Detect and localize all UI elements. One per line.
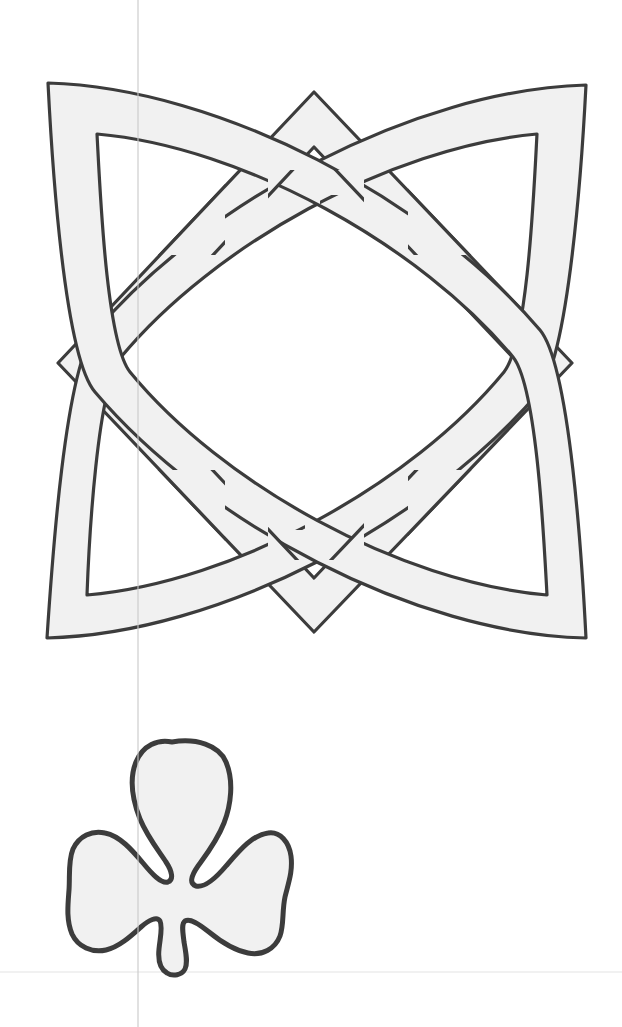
artwork-canvas: Celtic Knot and Shamrock Line Art Celtic… — [0, 0, 622, 1027]
line-art-svg — [0, 0, 622, 1027]
shamrock-figure — [68, 741, 292, 975]
knot-leaf-loop-nw-se — [48, 83, 586, 638]
shamrock-outline — [68, 741, 292, 975]
celtic-knot-figure — [47, 83, 586, 638]
